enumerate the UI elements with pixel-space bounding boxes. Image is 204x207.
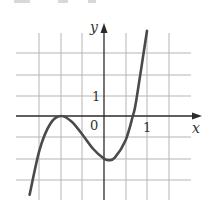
function-curve bbox=[30, 31, 147, 195]
x-axis-arrow-icon bbox=[192, 113, 202, 120]
y-tick-label-1: 1 bbox=[92, 89, 100, 104]
x-axis-label: x bbox=[192, 120, 200, 136]
x-tick-label-1: 1 bbox=[143, 120, 151, 135]
function-graph: x y 0 1 1 bbox=[0, 0, 204, 207]
x-axis bbox=[16, 113, 202, 120]
y-axis-label: y bbox=[89, 19, 99, 35]
y-axis-arrow-icon bbox=[101, 23, 108, 33]
y-axis bbox=[101, 23, 108, 200]
origin-label: 0 bbox=[90, 118, 98, 133]
